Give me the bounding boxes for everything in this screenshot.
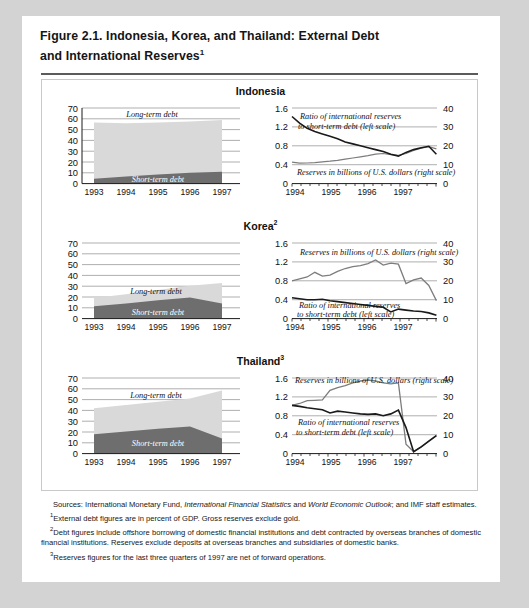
svg-text:0: 0 (443, 449, 448, 459)
chart-korea-debt: 70 60 50 40 30 20 10 0 Long-term debt (52, 233, 242, 337)
label-short-term-debt: Short-term debt (132, 175, 185, 184)
svg-text:30: 30 (68, 282, 78, 292)
svg-text:1995: 1995 (321, 457, 340, 467)
footnote-2-text: Debt figures include offshore borrowing … (41, 528, 481, 547)
svg-text:1996: 1996 (180, 322, 199, 332)
svg-text:20: 20 (68, 158, 78, 168)
svg-text:70: 70 (68, 374, 78, 384)
label-ratio-line1: Ratio of international reserves (299, 112, 401, 121)
svg-text:1993: 1993 (84, 322, 103, 332)
svg-text:1997: 1997 (212, 322, 231, 332)
svg-text:0: 0 (73, 449, 78, 459)
svg-text:1997: 1997 (393, 322, 412, 332)
svg-text:20: 20 (443, 141, 453, 151)
svg-text:0: 0 (73, 179, 78, 189)
svg-text:1996: 1996 (357, 322, 376, 332)
panel-footnote-marker: 2 (274, 219, 278, 226)
svg-text:50: 50 (68, 260, 78, 270)
svg-text:60: 60 (68, 249, 78, 259)
svg-text:1.6: 1.6 (275, 374, 288, 384)
svg-text:60: 60 (68, 114, 78, 124)
panel-name: Indonesia (236, 85, 285, 97)
figure-page: Figure 2.1. Indonesia, Korea, and Thaila… (0, 0, 529, 608)
sources-suffix: ; and IMF staff estimates. (392, 500, 477, 509)
svg-text:1997: 1997 (212, 187, 231, 197)
sources-italic-2: World Economic Outlook (308, 500, 392, 509)
sources-and: and (291, 500, 308, 509)
panel-title-indonesia: Indonesia (42, 84, 479, 97)
svg-text:1994: 1994 (116, 457, 135, 467)
figure-title-line1: Figure 2.1. Indonesia, Korea, and Thaila… (40, 29, 379, 43)
svg-text:1997: 1997 (393, 457, 412, 467)
y-axis-right-thailand: 40 30 20 10 0 (443, 374, 453, 460)
svg-text:1994: 1994 (285, 322, 304, 332)
svg-text:1994: 1994 (116, 187, 135, 197)
label-long-term-debt: Long-term debt (125, 110, 178, 119)
footnote-1-text: External debt figures are in percent of … (53, 514, 300, 523)
svg-text:1995: 1995 (148, 322, 167, 332)
sources-italic-1: International Financial Statistics (184, 500, 291, 509)
svg-text:1995: 1995 (148, 457, 167, 467)
svg-text:1995: 1995 (321, 322, 340, 332)
svg-text:0.4: 0.4 (275, 160, 288, 170)
panel-title-thailand: Thailand3 (42, 354, 479, 367)
chart-thailand-debt: 70 60 50 40 30 20 10 0 Long-term debt (52, 368, 242, 472)
x-axis-thailand-debt: 1993 1994 1995 1996 1997 (84, 457, 231, 467)
svg-text:1.6: 1.6 (275, 104, 288, 114)
chart-indonesia-reserves: 1.6 1.2 0.8 0.4 0 40 30 20 10 0 (264, 98, 469, 202)
svg-text:1994: 1994 (116, 322, 135, 332)
figure-card: Figure 2.1. Indonesia, Korea, and Thaila… (22, 16, 500, 582)
charts-frame: Indonesia 70 60 50 40 30 20 10 0 (41, 79, 478, 491)
svg-text:1996: 1996 (180, 187, 199, 197)
figure-title-footnote-marker: 1 (200, 48, 205, 57)
label-long-term-debt: Long-term debt (129, 287, 182, 296)
x-axis-korea-debt: 1993 1994 1995 1996 1997 (84, 322, 231, 332)
x-axis-thailand-reserves: 1994 1995 1996 1997 (285, 457, 412, 467)
label-reserves: Reserves in billions of U.S. dollars (ri… (299, 248, 459, 257)
label-short-term-debt: Short-term debt (132, 308, 185, 317)
panel-name: Korea (244, 220, 274, 232)
footnote-2: 2Debt figures include offshore borrowing… (41, 524, 481, 548)
title-divider (41, 73, 478, 75)
label-ratio-line1: Ratio of international reserves (297, 418, 399, 427)
svg-text:0.4: 0.4 (275, 295, 288, 305)
label-ratio-line1: Ratio of international reserves (298, 301, 400, 310)
panel-footnote-marker: 3 (280, 354, 284, 361)
svg-text:30: 30 (443, 257, 453, 267)
svg-text:50: 50 (68, 395, 78, 405)
label-ratio-line2: to short-term debt (left scale) (298, 122, 395, 131)
footnote-1: 1External debt figures are in percent of… (41, 510, 481, 524)
figure-title: Figure 2.1. Indonesia, Korea, and Thaila… (40, 28, 470, 64)
svg-text:1994: 1994 (285, 187, 304, 197)
svg-text:1996: 1996 (357, 457, 376, 467)
svg-text:10: 10 (443, 430, 453, 440)
chart-korea-reserves: 1.6 1.2 0.8 0.4 0 40 30 20 10 0 (264, 233, 469, 337)
footnote-3-text: Reserves figures for the last three quar… (53, 552, 326, 561)
svg-text:30: 30 (443, 122, 453, 132)
svg-text:1995: 1995 (148, 187, 167, 197)
svg-text:40: 40 (68, 136, 78, 146)
label-ratio-line2: to short-term debt (left scale) (297, 310, 394, 319)
x-axis-korea-reserves: 1994 1995 1996 1997 (285, 322, 412, 332)
svg-text:70: 70 (68, 104, 78, 114)
svg-text:40: 40 (68, 271, 78, 281)
svg-text:0.8: 0.8 (275, 276, 288, 286)
svg-text:30: 30 (443, 392, 453, 402)
svg-text:0.4: 0.4 (275, 430, 288, 440)
footnote-sources: Sources: International Monetary Fund, In… (41, 500, 481, 510)
svg-text:10: 10 (68, 168, 78, 178)
svg-text:20: 20 (68, 428, 78, 438)
panel-korea: Korea2 70 60 50 40 30 20 10 0 (42, 219, 479, 343)
svg-text:40: 40 (443, 239, 453, 249)
panel-title-korea: Korea2 (42, 219, 479, 232)
svg-text:0.8: 0.8 (275, 141, 288, 151)
panel-thailand: Thailand3 70 60 50 40 30 20 10 0 (42, 354, 479, 478)
svg-text:1.2: 1.2 (275, 392, 288, 402)
svg-text:60: 60 (68, 384, 78, 394)
svg-text:0: 0 (443, 314, 448, 324)
svg-text:1993: 1993 (84, 187, 103, 197)
svg-text:1995: 1995 (321, 187, 340, 197)
sources-prefix: Sources: International Monetary Fund, (53, 500, 184, 509)
label-short-term-debt: Short-term debt (132, 439, 185, 448)
figure-title-line2: and International Reserves (40, 49, 200, 63)
